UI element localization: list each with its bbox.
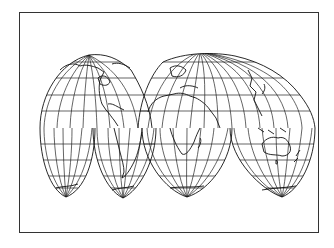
eurasia-africa-coast bbox=[148, 93, 220, 128]
lobe-africa-south bbox=[140, 128, 235, 197]
lobe-eurasia-africa bbox=[130, 52, 320, 128]
lobe-australia-oceania bbox=[228, 128, 318, 197]
world-map bbox=[0, 0, 334, 248]
lobe-south-pacific bbox=[30, 128, 100, 197]
lobe-north-america bbox=[30, 55, 160, 128]
lobe-south-america bbox=[90, 128, 160, 198]
